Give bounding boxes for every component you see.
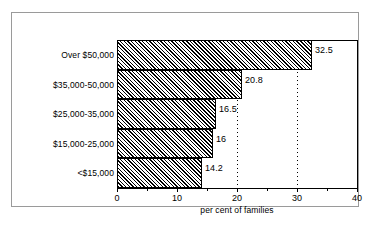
bar-over-50000 [117, 40, 312, 70]
bar-under-15000 [117, 158, 202, 188]
value-label-under-15000: 14.2 [205, 163, 223, 173]
xtick-minor-5 [147, 189, 148, 191]
plot-right-border [357, 40, 358, 188]
bar-35000-50000 [117, 70, 242, 100]
y-axis-label-15000-25000: $15,000-25,000 [53, 139, 114, 149]
xtick-label-10: 10 [165, 193, 189, 203]
value-label-35000-50000: 20.8 [245, 75, 263, 85]
y-axis-category-labels: Over $50,000 $35,000-50,000 $25,000-35,0… [26, 40, 114, 188]
value-label-15000-25000: 16 [216, 134, 226, 144]
x-axis-title: per cent of families [117, 205, 357, 215]
bar-25000-35000 [117, 99, 216, 129]
xtick-minor-25 [267, 189, 268, 191]
xtick-40 [357, 189, 358, 192]
plot-top-border [117, 40, 358, 41]
bar-15000-25000 [117, 129, 213, 159]
y-axis-label-35000-50000: $35,000-50,000 [53, 80, 114, 90]
xtick-20 [237, 189, 238, 192]
xtick-minor-15 [207, 189, 208, 191]
figure-frame: Over $50,000 $35,000-50,000 $25,000-35,0… [11, 12, 359, 207]
xtick-0 [117, 189, 118, 192]
y-axis-label-25000-35000: $25,000-35,000 [53, 109, 114, 119]
y-axis-label-over-50000: Over $50,000 [61, 50, 114, 60]
xtick-10 [177, 189, 178, 192]
xtick-minor-35 [327, 189, 328, 191]
xtick-label-20: 20 [225, 193, 249, 203]
xtick-label-30: 30 [285, 193, 309, 203]
xtick-label-0: 0 [105, 193, 129, 203]
y-axis-line [117, 40, 118, 189]
xtick-30 [297, 189, 298, 192]
y-axis-label-under-15000: <$15,000 [78, 168, 115, 178]
chart-screenshot: Over $50,000 $35,000-50,000 $25,000-35,0… [0, 0, 374, 226]
value-label-over-50000: 32.5 [315, 45, 333, 55]
xtick-label-40: 40 [345, 193, 369, 203]
value-label-25000-35000: 16.5 [219, 104, 237, 114]
